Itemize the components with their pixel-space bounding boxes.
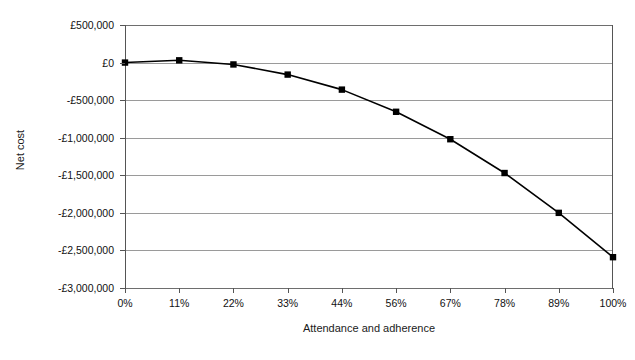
x-axis-tick-mark — [450, 288, 451, 293]
y-axis-tick-mark — [120, 100, 125, 101]
y-axis-tick-mark — [120, 25, 125, 26]
x-axis-title: Attendance and adherence — [125, 322, 613, 334]
x-axis-tick-mark — [559, 288, 560, 293]
y-axis-tick-label: -£3,000,000 — [58, 282, 114, 294]
y-axis-tick-mark — [120, 138, 125, 139]
data-point-marker — [230, 61, 236, 67]
chart-figure: Net cost £500,000£0-£500,000-£1,000,000-… — [0, 0, 635, 360]
series-line — [125, 60, 613, 257]
data-series-net-cost — [125, 25, 613, 288]
y-axis-tick-mark — [120, 63, 125, 64]
x-axis-tick-mark — [125, 288, 126, 293]
x-axis-tick-label: 22% — [223, 297, 244, 309]
data-point-marker — [556, 210, 562, 216]
y-axis-tick-mark — [120, 175, 125, 176]
x-axis-tick-label: 0% — [117, 297, 132, 309]
y-axis-tick-label: -£500,000 — [67, 94, 114, 106]
y-axis-tick-label: £500,000 — [70, 19, 114, 31]
gridline — [125, 288, 613, 289]
y-axis-tick-label: -£1,000,000 — [58, 132, 114, 144]
x-axis-tick-mark — [288, 288, 289, 293]
x-axis-tick-label: 33% — [277, 297, 298, 309]
x-axis-tick-label: 78% — [494, 297, 515, 309]
y-axis-tick-label: -£1,500,000 — [58, 169, 114, 181]
data-point-marker — [501, 170, 507, 176]
x-axis-tick-label: 100% — [600, 297, 627, 309]
data-point-marker — [284, 71, 290, 77]
x-axis-tick-label: 11% — [169, 297, 189, 309]
data-point-marker — [339, 86, 345, 92]
x-axis-tick-mark — [613, 288, 614, 293]
x-axis-tick-label: 67% — [440, 297, 461, 309]
data-point-marker — [610, 254, 616, 260]
x-axis-tick-mark — [342, 288, 343, 293]
y-axis-tick-label: -£2,500,000 — [58, 244, 114, 256]
y-axis-tick-label: -£2,000,000 — [58, 207, 114, 219]
y-axis-tick-mark — [120, 250, 125, 251]
x-axis-tick-label: 44% — [331, 297, 352, 309]
x-axis-tick-mark — [505, 288, 506, 293]
x-axis-tick-label: 56% — [386, 297, 407, 309]
x-axis-tick-mark — [233, 288, 234, 293]
x-axis-tick-label: 89% — [548, 297, 569, 309]
data-point-marker — [393, 109, 399, 115]
y-axis-tick-label: £0 — [102, 57, 114, 69]
y-axis-title-text: Net cost — [14, 130, 26, 170]
x-axis-tick-mark — [396, 288, 397, 293]
x-axis-tick-labels: 0%11%22%33%44%56%67%78%89%100% — [0, 297, 635, 315]
data-point-marker — [176, 57, 182, 63]
x-axis-tick-mark — [179, 288, 180, 293]
y-axis-tick-mark — [120, 213, 125, 214]
data-point-marker — [447, 136, 453, 142]
